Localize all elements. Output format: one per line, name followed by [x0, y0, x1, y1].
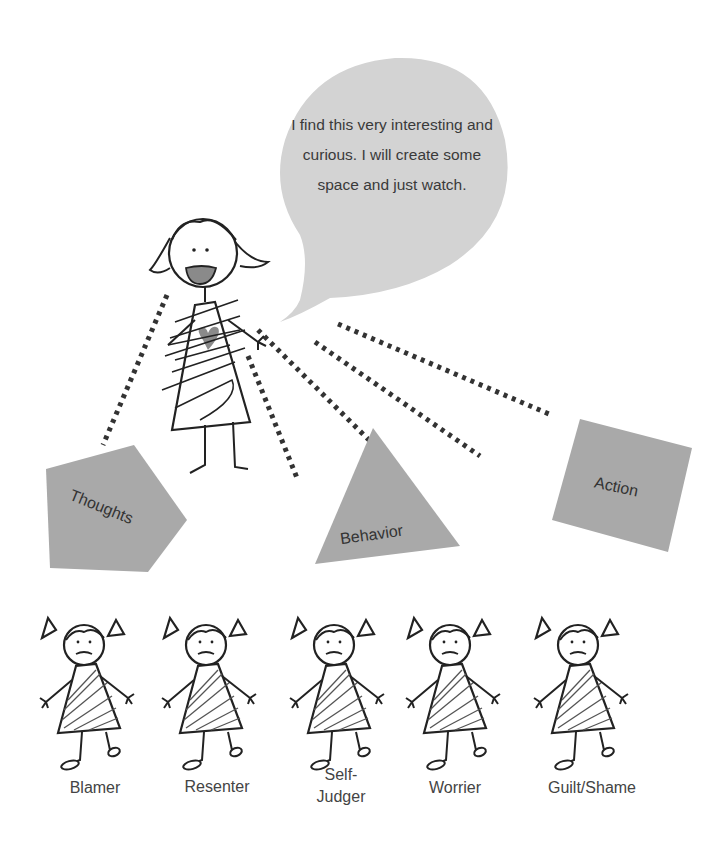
role-label-self-judger-line1: Self- — [325, 766, 358, 783]
speech-bubble-text: I find this very interesting and curious… — [282, 110, 502, 200]
role-label-self-judger-line2: Judger — [317, 788, 366, 805]
role-label-worrier: Worrier — [400, 777, 510, 799]
connector-thoughts — [103, 295, 167, 445]
connector-behavior-2 — [248, 356, 297, 478]
role-figure-self-judger — [290, 618, 384, 771]
role-figure-guilt-shame — [534, 618, 628, 771]
behavior-triangle — [315, 428, 460, 564]
role-figure-blamer — [40, 618, 134, 771]
connector-behavior-1 — [258, 330, 375, 446]
role-figure-resenter — [162, 618, 256, 771]
connector-action-1 — [315, 342, 480, 456]
connector-action-2 — [338, 324, 549, 414]
role-figure-worrier — [406, 618, 500, 771]
role-label-self-judger: Self- Judger — [286, 764, 396, 808]
role-label-guilt-shame: Guilt/Shame — [532, 777, 652, 799]
role-label-blamer: Blamer — [40, 777, 150, 799]
main-figure — [150, 219, 268, 473]
role-label-resenter: Resenter — [162, 776, 272, 798]
